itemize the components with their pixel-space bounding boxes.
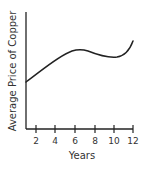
x-tick-label: 4: [52, 136, 58, 146]
x-tick-label: 6: [72, 136, 78, 146]
x-axis-title: Years: [68, 150, 95, 161]
y-axis-title: Average Price of Copper: [7, 10, 18, 132]
x-axis-tick-labels: 2 4 6 8 10 12: [33, 136, 139, 146]
x-tick-label: 12: [127, 136, 138, 146]
price-line: [26, 41, 133, 82]
copper-price-chart: 2 4 6 8 10 12 Years Average Price of Cop…: [0, 0, 148, 173]
x-tick-label: 2: [33, 136, 39, 146]
x-tick-label: 8: [92, 136, 98, 146]
x-tick-label: 10: [108, 136, 120, 146]
